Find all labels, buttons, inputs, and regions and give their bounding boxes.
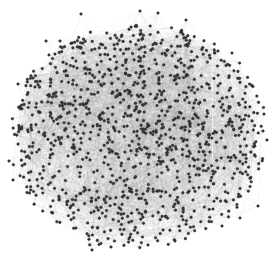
network-graph xyxy=(0,0,275,257)
network-graph-canvas xyxy=(0,0,275,257)
